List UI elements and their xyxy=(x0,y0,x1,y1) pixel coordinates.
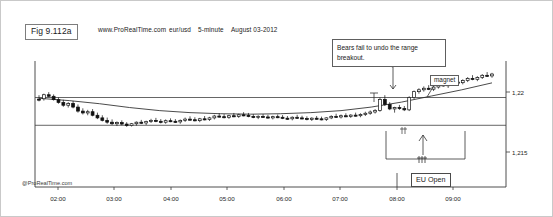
x-axis-tick-label: 08:00 xyxy=(389,195,404,202)
annotation-magnet: magnet xyxy=(430,75,459,86)
y-axis-tick-label: 1,215 xyxy=(512,149,527,156)
x-axis-tick-label: 03:00 xyxy=(106,195,121,202)
x-axis-tick-label: 09:00 xyxy=(445,195,460,202)
watermark: @ProRealTime.com xyxy=(22,181,72,187)
x-axis-tick-label: 04:00 xyxy=(163,195,178,202)
figure-frame: Fig 9.112a www.ProRealTime.com eur/usd 5… xyxy=(0,0,553,217)
header-date: August 03-2012 xyxy=(231,27,278,33)
annotation-eu-open: EU Open xyxy=(411,173,451,187)
header-site: www.ProRealTime.com xyxy=(98,27,166,33)
annotation-note: Bears fail to undo the range breakout. xyxy=(332,39,446,67)
header-symbol: eur/usd xyxy=(169,27,191,33)
y-axis-tick-label: 1,22 xyxy=(512,89,524,96)
x-axis-tick-label: 05:00 xyxy=(219,195,234,202)
x-axis-tick-label: 02:00 xyxy=(50,195,65,202)
candle-series xyxy=(38,72,494,127)
x-axis-tick-label: 06:00 xyxy=(276,195,291,202)
header-timeframe: 5-minute xyxy=(198,27,224,33)
x-axis-tick-label: 07:00 xyxy=(332,195,347,202)
figure-tag: Fig 9.112a xyxy=(25,24,78,40)
